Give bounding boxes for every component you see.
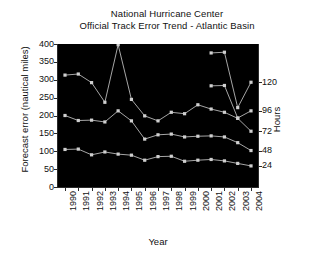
x-axis-tick-label: 1994 — [122, 191, 131, 211]
data-point-marker — [103, 150, 106, 153]
x-axis-tick-label: 2004 — [255, 191, 264, 211]
data-point-marker — [103, 120, 106, 123]
x-axis-tick — [105, 187, 106, 191]
y-axis-tick — [54, 169, 58, 170]
x-axis-tick — [158, 187, 159, 191]
right-axis-tick — [258, 151, 262, 152]
data-point-marker — [117, 109, 120, 112]
data-point-marker — [210, 84, 213, 87]
data-point-marker — [249, 81, 252, 84]
y-axis-tick-label: 300 — [39, 75, 54, 84]
data-point-marker — [223, 84, 226, 87]
data-point-marker — [103, 101, 106, 104]
data-point-marker — [170, 132, 173, 135]
y-axis-tick — [54, 116, 58, 117]
series-line-72 — [65, 45, 251, 132]
series-line-96 — [211, 85, 251, 118]
y-axis-tick — [54, 133, 58, 134]
data-point-marker — [183, 112, 186, 115]
x-axis-tick — [145, 187, 146, 191]
x-axis-tick — [251, 187, 252, 191]
right-axis-tick — [258, 131, 262, 132]
x-axis-tick-label: 2003 — [242, 191, 251, 211]
data-point-marker — [210, 51, 213, 54]
x-axis-tick-label: 1992 — [96, 191, 105, 211]
x-axis-tick — [171, 187, 172, 191]
x-axis-title: Year — [58, 236, 258, 247]
data-point-marker — [210, 158, 213, 161]
data-point-marker — [196, 135, 199, 138]
data-point-marker — [143, 138, 146, 141]
data-point-marker — [236, 141, 239, 144]
y-axis-tick — [54, 151, 58, 152]
x-axis-tick-label: 1996 — [149, 191, 158, 211]
right-axis-hours-label-24: 24 — [262, 161, 272, 170]
y-axis-tick — [54, 80, 58, 81]
x-axis-tick — [118, 187, 119, 191]
data-point-marker — [223, 159, 226, 162]
y-axis-tick-label: 50 — [44, 165, 54, 174]
data-point-marker — [143, 159, 146, 162]
data-point-marker — [156, 119, 159, 122]
x-axis-tick — [198, 187, 199, 191]
data-point-marker — [143, 114, 146, 117]
chart-title-line-2: Official Track Error Trend - Atlantic Ba… — [0, 20, 334, 32]
y-axis-title: Forecast error (nautical miles) — [19, 30, 30, 190]
data-point-marker — [156, 155, 159, 158]
data-point-marker — [117, 153, 120, 156]
y-axis-tick-label: 350 — [39, 57, 54, 66]
y-axis-tick-label: 400 — [39, 40, 54, 49]
data-point-marker — [130, 98, 133, 101]
y-axis-tick — [54, 62, 58, 63]
right-axis-hours-label-120: 120 — [262, 78, 277, 87]
x-axis-tick-label: 2001 — [215, 191, 224, 211]
chart-title-line-1: National Hurricane Center — [0, 8, 334, 20]
x-axis-tick-label: 2000 — [202, 191, 211, 211]
x-axis-tick — [78, 187, 79, 191]
data-point-marker — [156, 133, 159, 136]
data-point-marker — [236, 117, 239, 120]
x-axis-tick-label: 1995 — [135, 191, 144, 211]
data-point-marker — [130, 119, 133, 122]
x-axis-tick — [92, 187, 93, 191]
series-line-120 — [211, 52, 251, 107]
data-point-marker — [210, 134, 213, 137]
data-point-marker — [249, 149, 252, 152]
data-point-marker — [77, 72, 80, 75]
x-axis-tick-label: 1990 — [69, 191, 78, 211]
series-layer — [58, 44, 258, 187]
series-line-48 — [65, 111, 251, 151]
data-point-marker — [63, 148, 66, 151]
data-point-marker — [130, 154, 133, 157]
y-axis-tick-label: 200 — [39, 111, 54, 120]
data-point-marker — [249, 109, 252, 112]
data-point-marker — [196, 103, 199, 106]
x-axis-tick — [211, 187, 212, 191]
data-point-marker — [183, 135, 186, 138]
data-point-marker — [90, 119, 93, 122]
y-axis-tick — [54, 44, 58, 45]
data-point-marker — [117, 44, 120, 46]
y-axis-tick-label: 150 — [39, 129, 54, 138]
x-axis-tick-label: 1999 — [189, 191, 198, 211]
data-point-marker — [77, 148, 80, 151]
data-point-marker — [223, 51, 226, 54]
data-point-marker — [249, 130, 252, 133]
right-axis-title: Hours — [271, 90, 282, 150]
data-point-marker — [170, 111, 173, 114]
data-point-marker — [210, 107, 213, 110]
x-axis-tick — [185, 187, 186, 191]
x-axis-tick — [131, 187, 132, 191]
x-axis-tick-label: 2002 — [228, 191, 237, 211]
data-point-marker — [236, 162, 239, 165]
data-point-marker — [63, 114, 66, 117]
chart-title: National Hurricane Center Official Track… — [0, 8, 334, 32]
data-point-marker — [63, 74, 66, 77]
y-axis-tick-label: 100 — [39, 147, 54, 156]
data-point-marker — [90, 81, 93, 84]
x-axis-tick-labels: 1990199119921993199419951996199719981999… — [58, 189, 258, 235]
data-point-marker — [183, 160, 186, 163]
data-point-marker — [196, 159, 199, 162]
x-axis-tick-label: 1997 — [162, 191, 171, 211]
data-point-marker — [236, 106, 239, 109]
